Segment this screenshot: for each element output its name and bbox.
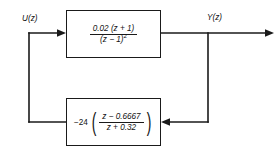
left-paren-glyph: ( [92,113,97,131]
forward-denominator-wrap: (z − 1)2 [97,35,130,45]
feedback-denominator: z + 0.32 [104,123,139,133]
feedback-gain: −24 [74,118,88,127]
feedback-numerator: z − 0.6667 [99,112,143,123]
feedback-fraction: z − 0.6667 z + 0.32 [99,112,143,132]
arrowhead-into-feedback-block [161,118,170,126]
right-paren-glyph: ) [147,113,152,131]
forward-numerator: 0.02 (z + 1) [90,24,138,35]
arrowhead-into-forward-block [57,29,66,37]
arrowhead-output-terminal [265,29,274,37]
forward-denominator: (z − 1) [100,35,123,44]
input-signal-label: U(z) [22,14,37,23]
feedback-path-transfer-function-block[interactable]: −24 ( z − 0.6667 z + 0.32 ) [66,98,161,146]
forward-transfer-function: 0.02 (z + 1) (z − 1)2 [90,24,138,44]
block-diagram-canvas: U(z) Y(z) 0.02 (z + 1) (z − 1)2 −24 ( z … [0,0,274,154]
output-signal-label: Y(z) [207,13,222,22]
forward-path-transfer-function-block[interactable]: 0.02 (z + 1) (z − 1)2 [66,10,161,58]
feedback-transfer-function: −24 ( z − 0.6667 z + 0.32 ) [74,112,153,132]
forward-denominator-exponent: 2 [124,33,127,39]
